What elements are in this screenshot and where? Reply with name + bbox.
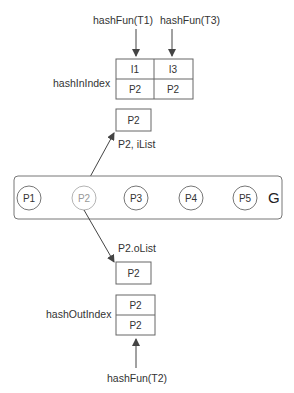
- graph-node-label: P3: [130, 193, 143, 204]
- hash-out-index-table: P2 P2: [116, 295, 155, 335]
- hash-in-index-table: I1 I3 P2 P2: [116, 59, 193, 99]
- hashfun-t1-label: hashFun(T1): [93, 14, 153, 26]
- olist-label: P2.oList: [118, 242, 156, 254]
- diagram-canvas: hashFun(T1) hashFun(T3) I1 I3 P2 P2 hash…: [0, 0, 294, 393]
- hash-out-row-2: P2: [129, 320, 142, 331]
- graph-node-label: P5: [239, 193, 252, 204]
- ilist-box-text: P2: [127, 115, 140, 126]
- hashfun-t3-label: hashFun(T3): [160, 14, 220, 26]
- graph-label: G: [268, 189, 280, 206]
- olist-box-text: P2: [127, 268, 140, 279]
- hash-in-key-2: I3: [169, 64, 178, 75]
- hash-out-row-1: P2: [129, 300, 142, 311]
- hashfun-t2-label: hashFun(T2): [107, 372, 167, 384]
- graph-node-label: P4: [185, 193, 198, 204]
- hash-in-value-2: P2: [167, 84, 180, 95]
- hash-in-index-label: hashInIndex: [53, 77, 111, 89]
- hash-in-value-1: P2: [129, 84, 142, 95]
- graph-node-label: P2: [78, 193, 91, 204]
- hash-out-index-label: hashOutIndex: [46, 308, 112, 320]
- graph-node-label: P1: [23, 193, 36, 204]
- hash-in-key-1: I1: [131, 64, 140, 75]
- ilist-label: P2, iList: [118, 138, 155, 150]
